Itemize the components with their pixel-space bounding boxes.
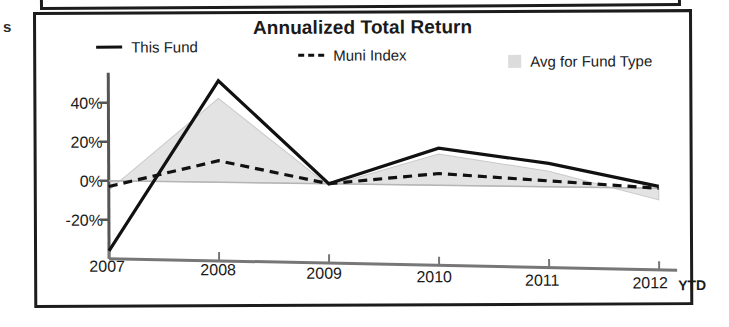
chart-svg xyxy=(36,12,696,311)
chart-panel: Annualized Total Return This Fund Muni I… xyxy=(33,9,693,308)
chart-plot-area xyxy=(36,12,696,311)
page-margin-text-fragment: s xyxy=(3,18,11,35)
adjacent-panel-border xyxy=(40,0,681,10)
